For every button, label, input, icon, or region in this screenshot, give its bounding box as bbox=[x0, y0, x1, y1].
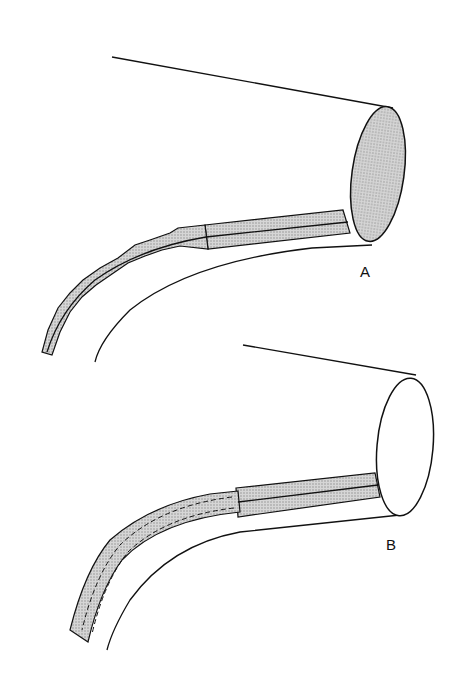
opening-ellipse-b bbox=[371, 376, 439, 518]
label-a: A bbox=[360, 263, 370, 280]
opening-ellipse-a bbox=[343, 103, 413, 245]
label-b: B bbox=[386, 536, 396, 553]
segmented-section-a bbox=[42, 225, 208, 355]
panel-a bbox=[42, 57, 413, 362]
straight-section-b bbox=[236, 473, 380, 517]
lower-wall-curve-a bbox=[95, 245, 372, 362]
diagram-canvas bbox=[0, 0, 455, 681]
upper-wall-line-a bbox=[112, 57, 393, 108]
panel-b bbox=[70, 345, 439, 650]
upper-wall-line-b bbox=[243, 345, 416, 375]
